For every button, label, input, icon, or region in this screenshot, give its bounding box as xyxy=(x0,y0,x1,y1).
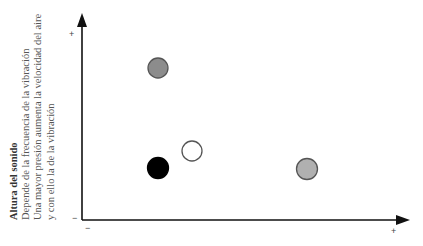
white-point-icon xyxy=(182,141,202,161)
gray-point-right-icon xyxy=(297,159,318,180)
diagram-canvas xyxy=(0,0,423,246)
x-axis-arrow-icon xyxy=(396,215,410,225)
x-axis-minus-label: − xyxy=(85,223,90,233)
x-axis-plus-label: + xyxy=(391,226,396,236)
y-axis-arrow-icon xyxy=(77,13,87,27)
y-axis-line-2: Una mayor presión aumenta la velocidad d… xyxy=(32,0,44,220)
y-axis-label: Altura del sonido Depende de la frecuenc… xyxy=(8,0,57,220)
y-axis-title: Altura del sonido xyxy=(8,0,20,220)
y-axis-minus-label: − xyxy=(72,213,77,223)
gray-point-top-icon xyxy=(148,58,168,78)
y-axis-line-3: y con ello la de la vibración xyxy=(45,0,57,220)
black-point-icon xyxy=(148,158,169,179)
y-axis-line-1: Depende de la frecuencia de la vibración xyxy=(20,0,32,220)
y-axis-plus-label: + xyxy=(69,29,74,39)
